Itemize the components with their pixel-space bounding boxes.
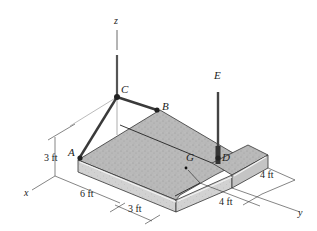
- joint-a: [77, 155, 82, 160]
- point-label-c: C: [121, 83, 129, 95]
- point-label-a: A: [67, 146, 75, 158]
- point-label-d: D: [221, 151, 230, 163]
- dim-label-4ft-upper: 4 ft: [260, 169, 274, 180]
- dim-label-3ft: 3 ft: [128, 203, 142, 214]
- axis-label-x: x: [23, 187, 29, 198]
- point-label-g: G: [186, 151, 194, 163]
- point-label-b: B: [162, 100, 169, 112]
- dim-label-4ft-lower: 4 ft: [219, 196, 233, 207]
- statics-diagram: z x y C B A E D G 3 ft 6 ft 3 ft 4 ft 4 …: [0, 0, 317, 231]
- axis-label-y: y: [297, 207, 303, 218]
- point-label-e: E: [213, 69, 221, 81]
- point-g: [185, 167, 188, 170]
- dim-label-6ft: 6 ft: [80, 188, 94, 199]
- dim-label-height: 3 ft: [44, 152, 58, 163]
- joint-c: [114, 94, 120, 100]
- joint-b: [154, 107, 159, 112]
- axis-label-z: z: [113, 15, 118, 26]
- slab: [78, 110, 268, 212]
- joint-d: [215, 155, 220, 160]
